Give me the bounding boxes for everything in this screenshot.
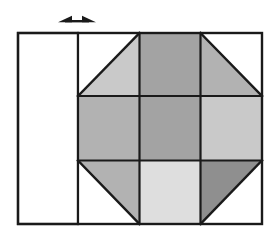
cell-top-center [140, 33, 201, 96]
figure-root: Octagon tiling grid with dimension arrow [0, 0, 274, 237]
cell-bottom-center [140, 161, 201, 225]
cell-middle-left [78, 96, 140, 161]
figure-canvas [0, 0, 274, 237]
cell-middle-right [201, 96, 263, 161]
grid-cells [78, 33, 262, 224]
left-panel [18, 33, 78, 224]
cell-middle-center [140, 96, 201, 161]
